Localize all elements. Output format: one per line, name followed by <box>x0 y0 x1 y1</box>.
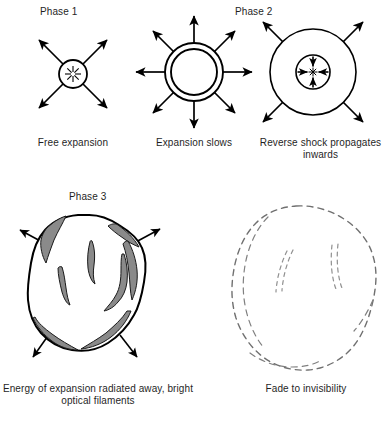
caption-fade-to-invisibility: Fade to invisibility <box>240 383 372 395</box>
heading-phase-3: Phase 3 <box>69 191 106 202</box>
caption-expansion-slows: Expansion slows <box>133 137 255 149</box>
supernova-remnant-evolution-diagram <box>0 0 388 424</box>
free-expansion-core-circle <box>59 60 87 88</box>
caption-energy-radiated: Energy of expansion radiated away, brigh… <box>0 383 196 407</box>
reverse-shock-center-spokes <box>309 68 318 77</box>
caption-reverse-shock: Reverse shock propagates inwards <box>253 137 388 161</box>
heading-phase-1: Phase 1 <box>40 6 77 17</box>
caption-free-expansion: Free expansion <box>8 137 138 149</box>
panel-reverse-shock <box>263 22 363 122</box>
expansion-slows-inner-circle <box>171 49 217 95</box>
heading-phase-2: Phase 2 <box>235 6 272 17</box>
